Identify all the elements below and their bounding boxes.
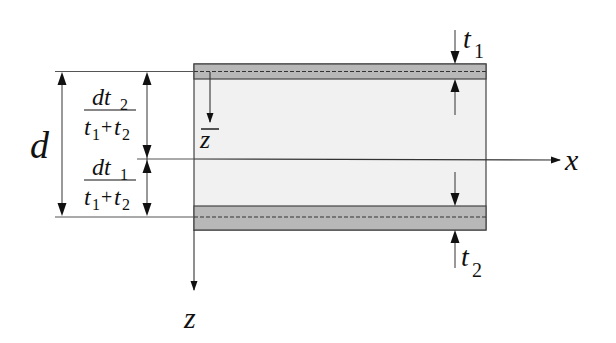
lower-arrow-bottom-icon [143, 203, 152, 216]
svg-text:+: + [101, 186, 112, 208]
svg-text:1: 1 [92, 196, 100, 213]
t2-subscript: 2 [472, 259, 482, 281]
t1-arrow-down-head-icon [451, 51, 460, 64]
sandwich-beam-diagram: x z z d dt 2 t 1 + t 2 dt 1 t 1 + t 2 t [0, 0, 616, 343]
lower-arrow-top-icon [143, 160, 152, 173]
z-axis-label: z [183, 301, 196, 334]
t1-label: t [463, 23, 472, 54]
svg-text:t: t [84, 114, 92, 140]
t2-arrow-up-head-icon [451, 230, 460, 243]
core [194, 64, 486, 230]
svg-text:t: t [114, 114, 122, 140]
svg-text:1: 1 [92, 126, 100, 143]
svg-text:t: t [84, 184, 92, 210]
svg-text:dt: dt [92, 154, 112, 180]
bottom-face-sheet [194, 206, 486, 230]
svg-text:2: 2 [122, 126, 130, 143]
t1-subscript: 1 [474, 40, 484, 62]
upper-arrow-top-icon [143, 72, 152, 85]
svg-text:dt: dt [92, 84, 112, 110]
upper-fraction: dt 2 t 1 + t 2 [84, 84, 136, 143]
d-label: d [30, 124, 50, 166]
svg-text:2: 2 [122, 196, 130, 213]
lower-fraction: dt 1 t 1 + t 2 [84, 154, 136, 213]
x-axis-label: x [564, 143, 579, 176]
d-arrow-top-icon [58, 72, 67, 85]
d-arrow-bottom-icon [58, 203, 67, 216]
upper-arrow-bottom-icon [143, 145, 152, 158]
svg-text:+: + [101, 116, 112, 138]
svg-text:t: t [114, 184, 122, 210]
t2-label: t [461, 241, 470, 272]
